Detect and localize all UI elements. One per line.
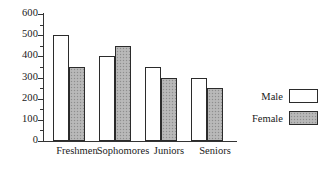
plot-area xyxy=(44,14,237,141)
legend-swatch-male xyxy=(289,89,318,103)
bar-juniors-female xyxy=(161,78,177,142)
bar-seniors-male xyxy=(191,78,207,142)
chart-legend: Male Female xyxy=(252,88,318,132)
category-label-seniors: Seniors xyxy=(179,145,251,157)
legend-label-male: Male xyxy=(261,91,283,102)
bar-seniors-female xyxy=(207,88,223,141)
bar-sophomores-female xyxy=(115,46,131,141)
y-tick-label: 300 xyxy=(0,72,38,82)
legend-swatch-female xyxy=(289,111,318,125)
legend-item-male: Male xyxy=(252,88,318,104)
y-tick-major xyxy=(38,141,44,142)
y-tick-label: 200 xyxy=(0,93,38,103)
bar-juniors-male xyxy=(145,67,161,141)
legend-item-female: Female xyxy=(252,110,318,126)
bar-chart: 0100200300400500600 FreshmenSophomoresJu… xyxy=(0,0,323,169)
bar-freshmen-male xyxy=(53,35,69,141)
bar-sophomores-male xyxy=(99,56,115,141)
x-axis-line xyxy=(43,141,237,142)
y-tick-label: 0 xyxy=(0,135,38,145)
bar-freshmen-female xyxy=(69,67,85,141)
y-tick-label: 400 xyxy=(0,50,38,60)
legend-label-female: Female xyxy=(252,113,283,124)
y-tick-label: 500 xyxy=(0,29,38,39)
y-tick-label: 100 xyxy=(0,114,38,124)
y-tick-label: 600 xyxy=(0,8,38,18)
